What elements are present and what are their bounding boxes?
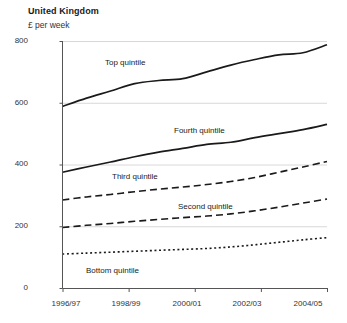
series-line-third-quintile (63, 161, 328, 200)
chart-plot-area (0, 0, 347, 323)
series-line-top-quintile (63, 45, 328, 107)
gridlines (63, 42, 328, 227)
series-line-second-quintile (63, 199, 328, 227)
series-line-bottom-quintile (63, 238, 328, 254)
series-lines (63, 45, 328, 254)
chart-page: United Kingdom £ per week 800 600 400 20… (0, 0, 347, 323)
